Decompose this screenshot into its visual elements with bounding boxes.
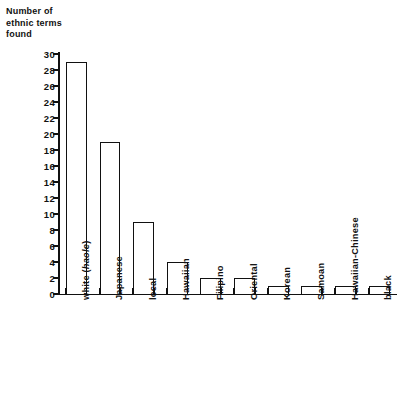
x-tick-label: local — [148, 278, 158, 300]
y-tick-label: 16 — [31, 161, 55, 172]
x-tick-label: Hawaiian-Chinese — [350, 217, 360, 300]
y-tick-label: 24 — [31, 97, 55, 108]
bar-chart: 024681012141618202224262830 white (haole… — [0, 0, 408, 398]
y-tick-label: 30 — [31, 49, 55, 60]
y-tick-label: 8 — [31, 225, 55, 236]
x-label-italic-term: haole — [81, 244, 91, 269]
x-tick-label: black — [383, 275, 393, 300]
y-axis-line — [58, 52, 60, 295]
x-tick-label: white (haole) — [81, 241, 91, 300]
y-tick-label: 2 — [31, 273, 55, 284]
y-tick-label: 18 — [31, 145, 55, 156]
y-tick-label: 26 — [31, 81, 55, 92]
y-tick-label: 20 — [31, 129, 55, 140]
x-tick-label: Filipino — [215, 265, 225, 300]
x-tick-label: Korean — [282, 267, 292, 300]
y-tick-label: 6 — [31, 241, 55, 252]
x-tick-label: Oriental — [249, 263, 259, 300]
y-tick-label: 10 — [31, 209, 55, 220]
x-tick-label: Samoan — [316, 263, 326, 300]
x-tick-label: Japanese — [114, 256, 124, 300]
y-tick-label: 28 — [31, 65, 55, 76]
y-tick-label: 4 — [31, 257, 55, 268]
y-tick-label: 14 — [31, 177, 55, 188]
y-tick-label: 22 — [31, 113, 55, 124]
y-tick-label: 12 — [31, 193, 55, 204]
x-tick-label: Hawaiian — [181, 258, 191, 300]
y-tick-label: 0 — [31, 289, 55, 300]
